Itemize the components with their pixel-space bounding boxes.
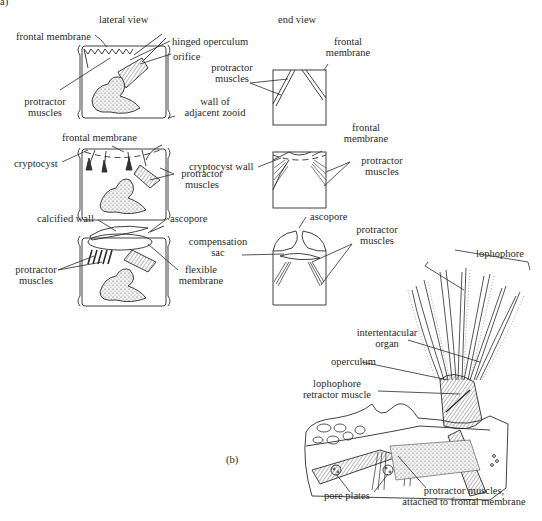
label-intertentacular-organ: intertentacularorgan: [356, 327, 418, 349]
bryozoan-diagram: [0, 0, 542, 521]
label-protractor-muscles-2b: protractormuscles: [356, 155, 408, 177]
row2-lateral-zooid: [78, 145, 170, 220]
label-protractor-muscles-3a: protractormuscles: [12, 264, 60, 286]
row3-end-zooid: [273, 231, 326, 305]
row1-lateral-zooid: [78, 34, 170, 119]
row2-end-zooid: [273, 152, 326, 208]
label-flexible-membrane: flexiblemembrane: [176, 264, 226, 286]
label-wall-adjacent-zooid: wall ofadjacent zooid: [178, 96, 252, 118]
label-ascopore-lateral: ascopore: [170, 213, 207, 224]
row3-lateral-zooid: [78, 226, 170, 306]
label-frontal-membrane-1: frontal membrane: [16, 31, 91, 42]
label-calcified-wall: calcified wall: [37, 213, 94, 224]
end-view-header: end view: [278, 14, 316, 25]
panel-b-label: (b): [226, 454, 238, 465]
label-operculum: operculum: [331, 356, 376, 367]
label-pore-plates: pore plates: [324, 490, 370, 501]
panel-a-label: a): [0, 0, 8, 7]
label-protractor-muscles-1b: protractormuscles: [206, 62, 258, 84]
label-cryptocyst-wall: cryptocyst wall: [189, 161, 253, 172]
label-ascopore-end: ascopore: [310, 211, 347, 222]
label-hinged-operculum: hinged operculum: [172, 36, 248, 47]
row1-end-zooid: [273, 70, 326, 125]
label-protractor-muscles-3b: protractormuscles: [352, 224, 402, 246]
label-lophophore-retractor-muscle: lophophoreretractor muscle: [296, 378, 378, 400]
label-protractor-muscles-1a: protractormuscles: [20, 96, 70, 118]
label-frontal-membrane-2b: frontalmembrane: [336, 122, 396, 144]
label-cryptocyst: cryptocyst: [14, 158, 58, 169]
label-protractor-attached: protractor muscles,attached to frontal m…: [394, 485, 534, 507]
label-frontal-membrane-1b: frontalmembrane: [318, 36, 378, 58]
label-lophophore: lophophore: [476, 248, 524, 259]
label-frontal-membrane-2: frontal membrane: [62, 132, 137, 143]
label-compensation-sac: compensationsac: [188, 236, 248, 258]
lateral-view-header: lateral view: [99, 14, 148, 25]
label-orifice: orifice: [173, 51, 200, 62]
